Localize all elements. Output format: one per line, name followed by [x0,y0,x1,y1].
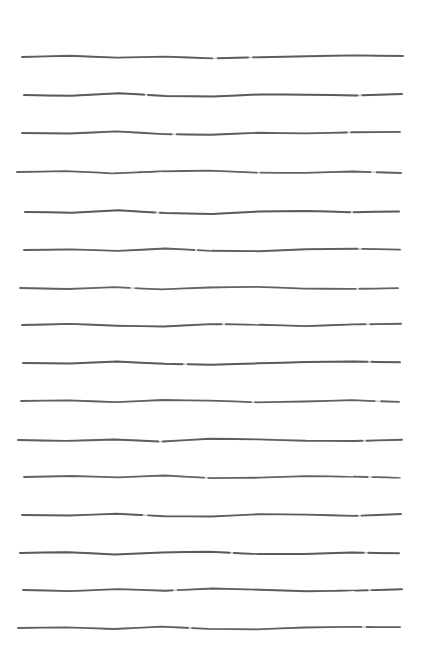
ruled-line [25,210,399,214]
ruled-line [23,362,400,365]
ruled-line [22,131,400,134]
ruled-lines-layer [0,0,421,665]
ruled-paper-page [0,0,421,665]
ruled-line [22,324,401,327]
ruled-line [24,93,402,96]
ruled-line [17,171,401,174]
ruled-line [22,514,401,517]
ruled-line [22,55,403,58]
ruled-line [24,249,400,252]
ruled-line [18,439,402,442]
ruled-line [21,400,399,402]
ruled-line [20,552,399,555]
ruled-line [23,589,402,592]
ruled-line [20,287,398,290]
ruled-line [18,627,400,630]
ruled-line [24,476,400,479]
